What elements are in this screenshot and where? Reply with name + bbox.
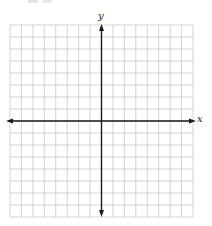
y-axis-label: y — [98, 11, 104, 21]
x-axis-right-arrowhead-icon — [189, 119, 196, 124]
x-axis-left-arrowhead-icon — [6, 119, 13, 124]
y-axis-bottom-arrowhead-icon — [99, 210, 104, 217]
coordinate-plane — [0, 0, 212, 226]
x-axis-label: x — [197, 114, 203, 124]
axes — [6, 24, 196, 217]
